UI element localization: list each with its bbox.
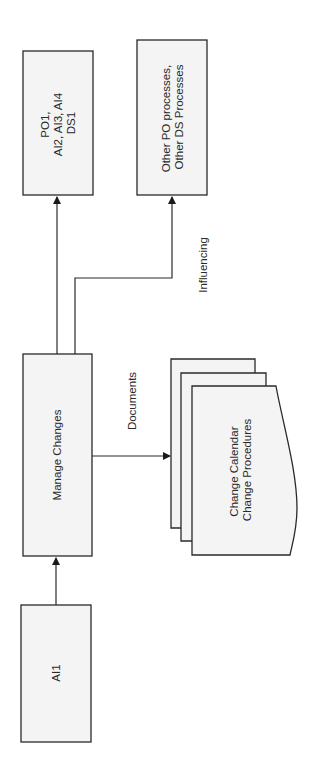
svg-text:Other PO processes, Othe: Other PO processes, Other DS Processes [160,62,185,173]
document-line-1: Change Calendar [228,426,240,516]
node-po1-ai2-ai3-ai4-ds1: PO1, AI2, AI3, AI4 DS1 [23,51,93,195]
node-other-line-1: Other PO processes, [160,65,172,172]
node-po1-line-1: PO1, [39,111,51,137]
svg-text:Change Calendar Change P: Change Calendar Change Procedures [228,419,253,522]
node-manage-changes-label: Manage Changes [51,409,63,500]
document-line-2: Change Procedures [241,419,253,522]
node-documents-stack: Change Calendar Change Procedures [171,359,297,555]
node-ai1-label: AI1 [50,664,62,681]
node-other-processes: Other PO processes, Other DS Processes [137,40,207,195]
process-diagram: Influencing Documents PO1, AI2, AI3, AI4… [0,0,309,781]
node-manage-changes: Manage Changes [23,354,92,556]
edge-label-documents: Documents [126,372,138,430]
node-other-line-2: Other DS Processes [173,64,185,169]
edge-label-influencing: Influencing [197,237,209,293]
node-po1-line-3: DS1 [65,112,77,134]
node-po1-line-2: AI2, AI3, AI4 [52,92,64,156]
node-ai1: AI1 [21,605,91,742]
edge-manage-changes-to-other-processes: Influencing [75,197,209,354]
edge-manage-changes-to-documents: Documents [92,372,170,456]
